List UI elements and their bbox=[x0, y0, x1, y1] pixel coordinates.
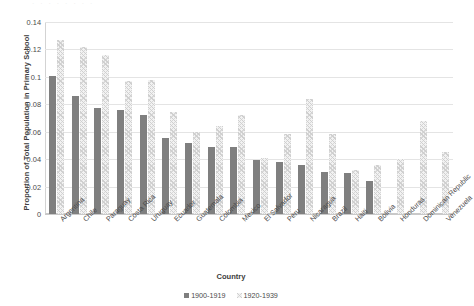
bar bbox=[80, 47, 87, 214]
bar-group bbox=[158, 22, 181, 214]
bar-group bbox=[385, 22, 408, 214]
x-axis-tick-labels: ArgentinaChileParaguayCosta RicaUruguayE… bbox=[45, 216, 453, 268]
y-axis-tick-label: 0.08 bbox=[27, 100, 41, 109]
y-axis-tick-label: 0.02 bbox=[27, 182, 41, 191]
x-axis-title: Country bbox=[0, 272, 462, 281]
bar bbox=[298, 165, 305, 214]
bar bbox=[125, 81, 132, 214]
bar-group bbox=[340, 22, 363, 214]
bar-group bbox=[90, 22, 113, 214]
bar-group bbox=[68, 22, 91, 214]
bar-group bbox=[408, 22, 431, 214]
legend-item: 1920-1939 bbox=[237, 291, 278, 300]
bar-group bbox=[317, 22, 340, 214]
bar-group bbox=[45, 22, 68, 214]
bar-group bbox=[204, 22, 227, 214]
clipped-text-artifact: · · · · · · · · bbox=[32, 0, 432, 6]
bar bbox=[352, 170, 359, 214]
y-axis-tick-label: 0.04 bbox=[27, 155, 41, 164]
bar-group bbox=[272, 22, 295, 214]
bar bbox=[170, 112, 177, 214]
y-axis-tick-label: 0.1 bbox=[31, 72, 41, 81]
legend-label: 1920-1939 bbox=[244, 291, 278, 300]
bar bbox=[366, 181, 373, 214]
bar bbox=[261, 158, 268, 214]
y-axis-tick-label: 0.14 bbox=[27, 18, 41, 27]
bar bbox=[49, 76, 56, 215]
legend-swatch bbox=[184, 293, 189, 298]
bar bbox=[374, 165, 381, 214]
legend-swatch bbox=[237, 293, 242, 298]
legend-label: 1900-1919 bbox=[191, 291, 225, 300]
bar-group bbox=[226, 22, 249, 214]
bar-group bbox=[362, 22, 385, 214]
bar-group bbox=[294, 22, 317, 214]
bar bbox=[306, 99, 313, 214]
y-axis-tick-label: 0 bbox=[37, 210, 41, 219]
bar bbox=[94, 108, 101, 214]
bar-group bbox=[136, 22, 159, 214]
legend-item: 1900-1919 bbox=[184, 291, 225, 300]
bar bbox=[397, 159, 404, 214]
bar-group bbox=[181, 22, 204, 214]
bar bbox=[57, 40, 64, 214]
bar-group bbox=[113, 22, 136, 214]
plot-area: 00.020.040.060.080.10.120.14 bbox=[45, 22, 453, 214]
y-axis-tick-label: 0.12 bbox=[27, 45, 41, 54]
y-axis-tick-label: 0.06 bbox=[27, 127, 41, 136]
legend: 1900-19191920-1939 bbox=[0, 291, 462, 300]
bar bbox=[102, 55, 109, 214]
bar-group bbox=[430, 22, 453, 214]
bar-group bbox=[249, 22, 272, 214]
bar-series-container bbox=[45, 22, 453, 214]
